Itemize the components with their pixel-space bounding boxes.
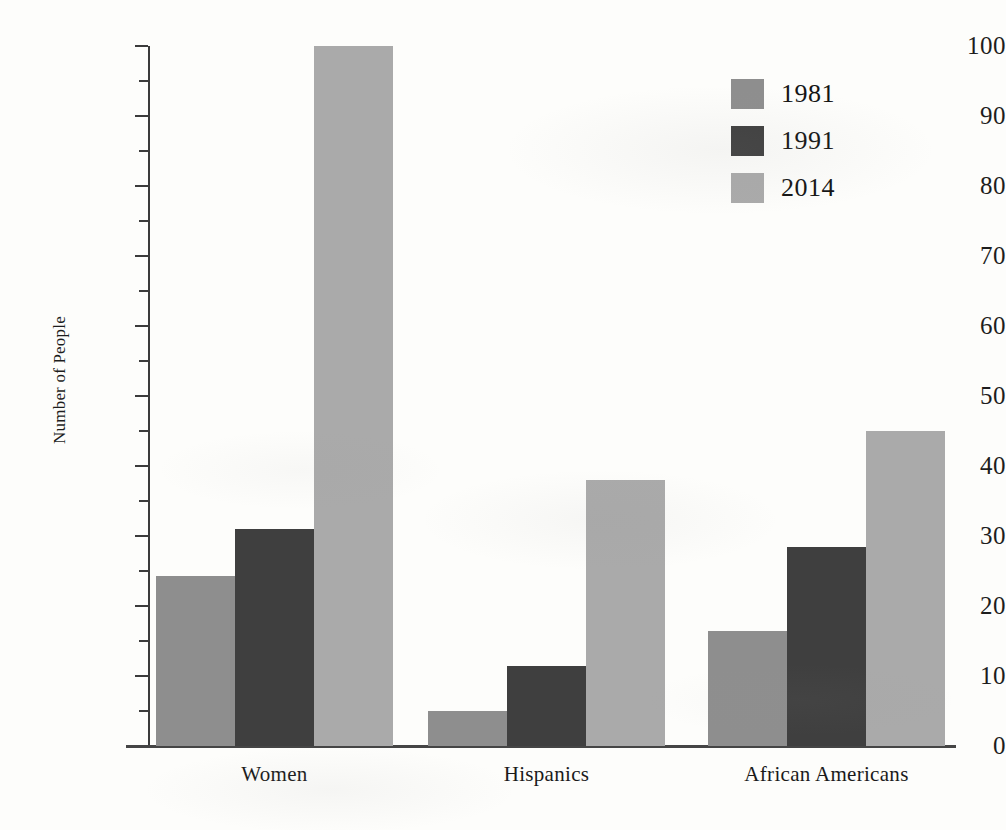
y-tick-major (135, 535, 148, 537)
y-axis-title: Number of People (50, 280, 70, 480)
x-axis-label-african-americans: African Americans (708, 762, 945, 787)
y-tick-major (135, 675, 148, 677)
y-tick-minor (139, 430, 148, 432)
y-tick-minor (139, 80, 148, 82)
legend-label-1981: 1981 (781, 81, 835, 107)
y-tick-major (135, 325, 148, 327)
y-tick-major (135, 45, 148, 47)
bar-group (428, 46, 665, 746)
legend-swatch-1981 (731, 79, 764, 109)
x-axis-label-women: Women (156, 762, 393, 787)
legend-swatch-2014 (731, 173, 764, 203)
legend: 198119912014 (731, 70, 835, 211)
y-tick-major (135, 255, 148, 257)
bar-chart: 0102030405060708090100 Number of People … (0, 0, 1006, 830)
y-tick-major (135, 465, 148, 467)
bar-1991-women (235, 529, 314, 746)
y-tick-minor (139, 290, 148, 292)
x-axis-label-hispanics: Hispanics (428, 762, 665, 787)
bar-1981-hispanics (428, 711, 507, 746)
y-tick-minor (139, 360, 148, 362)
plot-area (150, 46, 956, 746)
bar-2014-hispanics (586, 480, 665, 746)
bar-1991-hispanics (507, 666, 586, 747)
legend-item-2014: 2014 (731, 164, 835, 211)
legend-item-1981: 1981 (731, 70, 835, 117)
y-tick-major (135, 395, 148, 397)
y-tick-minor (139, 500, 148, 502)
y-tick-major (135, 115, 148, 117)
bar-2014-women (314, 46, 393, 746)
y-tick-minor (139, 150, 148, 152)
y-tick-major (135, 185, 148, 187)
y-tick-minor (139, 570, 148, 572)
bar-1981-african-americans (708, 631, 787, 747)
legend-swatch-1991 (731, 126, 764, 156)
bar-1991-african-americans (787, 547, 866, 747)
bar-group (156, 46, 393, 746)
legend-label-2014: 2014 (781, 175, 835, 201)
y-tick-minor (139, 640, 148, 642)
bar-1981-women (156, 576, 235, 746)
legend-label-1991: 1991 (781, 128, 835, 154)
y-tick-minor (139, 710, 148, 712)
legend-item-1991: 1991 (731, 117, 835, 164)
y-tick-major (135, 605, 148, 607)
y-tick-minor (139, 220, 148, 222)
bar-2014-african-americans (866, 431, 945, 746)
